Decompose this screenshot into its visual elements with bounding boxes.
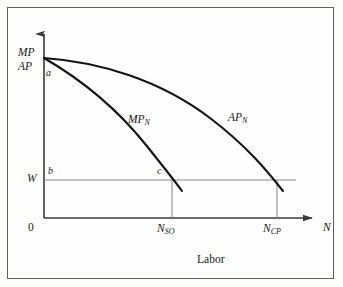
curve-label-mpn-subscript: N bbox=[145, 118, 150, 127]
point-label-a: a bbox=[46, 68, 51, 78]
curve-label-apn-base: AP bbox=[228, 111, 242, 123]
curve-label-apn: APN bbox=[228, 112, 247, 125]
x-tick-label-ncp-subscript: CP bbox=[271, 227, 281, 236]
curve-label-mpn: MPN bbox=[128, 114, 150, 127]
chart-canvas bbox=[0, 0, 343, 287]
x-tick-label-nso-base: N bbox=[157, 222, 165, 234]
point-label-b: b bbox=[48, 166, 53, 176]
x-axis-symbol: N bbox=[323, 222, 331, 234]
figure-container: MP AP a b c W 0 MPN APN NSO NCP N Labor bbox=[0, 0, 343, 287]
x-tick-label-nso: NSO bbox=[157, 223, 175, 236]
curve-label-mpn-base: MP bbox=[128, 113, 145, 125]
y-axis-label-mp: MP bbox=[18, 47, 35, 59]
y-tick-label-w: W bbox=[27, 173, 37, 185]
x-tick-label-ncp: NCP bbox=[263, 223, 281, 236]
y-axis-label-ap: AP bbox=[18, 61, 32, 73]
curve-label-apn-subscript: N bbox=[242, 116, 247, 125]
origin-label: 0 bbox=[28, 222, 34, 234]
x-tick-label-ncp-base: N bbox=[263, 222, 271, 234]
x-axis-title: Labor bbox=[197, 254, 224, 266]
point-label-c: c bbox=[157, 166, 161, 176]
x-tick-label-nso-subscript: SO bbox=[165, 227, 175, 236]
